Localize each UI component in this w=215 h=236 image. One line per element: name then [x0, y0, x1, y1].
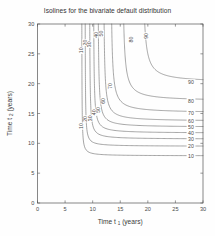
x-tick-label-30: 30 — [200, 206, 206, 212]
contour-inline-label-50: 50 — [98, 31, 104, 37]
x-tick-label-0: 0 — [36, 206, 39, 212]
contour-edge-label-70: 70 — [188, 110, 194, 116]
y-tick-label-0: 0 — [31, 200, 34, 206]
y-tick-label-25: 25 — [28, 51, 34, 57]
x-tick-label-20: 20 — [145, 206, 151, 212]
contour-inline-label-90: 90 — [143, 33, 149, 39]
x-tick-label-25: 25 — [172, 206, 178, 212]
x-tick-label-5: 5 — [64, 206, 67, 212]
x-tick-label-15: 15 — [117, 206, 123, 212]
axes-frame — [38, 24, 204, 203]
contour-inline-label-70: 70 — [107, 83, 113, 89]
x-tick-label-10: 10 — [90, 206, 96, 212]
contour-line-20 — [85, 24, 203, 146]
contour-inline-label-10: 10 — [78, 123, 84, 129]
y-tick-label-20: 20 — [28, 81, 34, 87]
contour-edge-label-20: 20 — [188, 143, 194, 149]
contour-inline-label-80: 80 — [128, 37, 134, 43]
contour-line-10 — [82, 24, 203, 156]
contour-line-90 — [145, 24, 203, 80]
contour-line-80 — [124, 24, 203, 99]
contour-edge-label-30: 30 — [188, 136, 194, 142]
contour-figure: Isolines for the bivariate default distr… — [0, 0, 215, 236]
contour-line-60 — [104, 24, 203, 120]
contour-inline-label-50: 50 — [95, 107, 101, 113]
y-tick-label-5: 5 — [31, 170, 34, 176]
contour-edge-label-10: 10 — [188, 153, 194, 159]
contour-line-30 — [90, 24, 203, 139]
y-tick-label-15: 15 — [28, 111, 34, 117]
contour-edge-label-80: 80 — [188, 98, 194, 104]
contour-inline-label-60: 60 — [100, 98, 106, 104]
contour-inline-label-30: 30 — [86, 41, 92, 47]
y-axis-label: Time t 2 (years) — [6, 91, 15, 136]
x-axis-label: Time t 1 (years) — [98, 218, 143, 227]
contour-edge-label-90: 90 — [188, 79, 194, 85]
y-tick-label-10: 10 — [28, 140, 34, 146]
contour-plot-svg: 051015202530051015202530Time t 1 (years)… — [0, 0, 215, 236]
contour-inline-label-10: 10 — [78, 47, 84, 53]
y-tick-label-30: 30 — [28, 21, 34, 27]
